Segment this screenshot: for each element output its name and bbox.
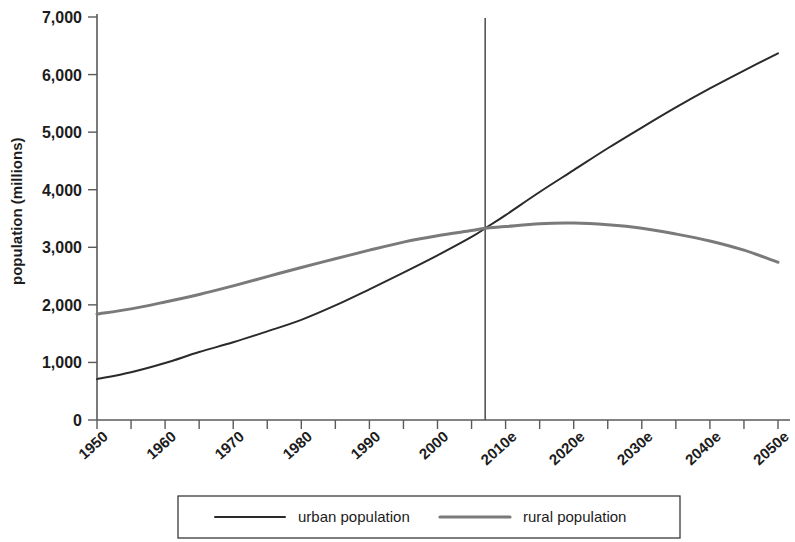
y-tick-label: 2,000 (42, 297, 82, 314)
series-line-urban (97, 53, 778, 379)
legend-label-rural: rural population (523, 508, 626, 525)
legend-label-urban: urban population (298, 508, 410, 525)
chart-figure: population (millions) 01,0002,0003,0004,… (0, 0, 795, 542)
x-tick-label: 1950 (75, 428, 111, 463)
x-tick-label: 1970 (211, 428, 247, 463)
population-line-chart: population (millions) 01,0002,0003,0004,… (0, 0, 795, 542)
y-tick-label: 4,000 (42, 182, 82, 199)
x-tick-label: 1960 (143, 428, 179, 463)
legend: urban population rural population (178, 496, 680, 538)
x-tick-label: 2030e (613, 428, 655, 469)
y-axis-tick-group: 01,0002,0003,0004,0005,0006,0007,000 (42, 9, 97, 429)
x-axis-tick-group: 1950196019701980199020002010e2020e2030e2… (75, 420, 792, 468)
y-tick-label: 3,000 (42, 239, 82, 256)
y-tick-label: 5,000 (42, 124, 82, 141)
y-axis-title-group: population (millions) (8, 138, 25, 285)
axis-lines-group (97, 14, 790, 420)
y-tick-label: 0 (73, 412, 82, 429)
x-tick-label: 2020e (545, 428, 587, 469)
series-line-rural (97, 223, 778, 314)
x-tick-label: 2010e (477, 428, 519, 469)
x-tick-label: 2050e (750, 428, 792, 469)
x-tick-label: 1980 (279, 428, 315, 463)
x-tick-label: 1990 (347, 428, 383, 463)
x-tick-label: 2040e (682, 428, 724, 469)
x-tick-label: 2000 (415, 428, 451, 463)
y-tick-label: 1,000 (42, 354, 82, 371)
data-series-group (97, 53, 778, 379)
y-tick-label: 6,000 (42, 67, 82, 84)
y-axis-title: population (millions) (8, 138, 25, 285)
y-tick-label: 7,000 (42, 9, 82, 26)
